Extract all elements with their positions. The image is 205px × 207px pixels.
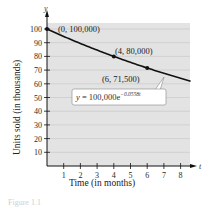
y-axis-letter: y — [43, 4, 48, 13]
y-tick-label: 50 — [34, 94, 42, 103]
y-tick-label: 100 — [30, 25, 42, 34]
y-tick-label: 30 — [34, 121, 42, 130]
x-tick-label: 7 — [162, 171, 166, 180]
figure-caption: Figure 1.1 — [8, 198, 41, 207]
x-axis-title: Time (in months) — [69, 178, 135, 189]
point-label-0: (0, 100,000) — [58, 24, 100, 34]
data-point — [45, 27, 49, 31]
x-axis-arrow-icon — [190, 164, 197, 168]
y-tick-label: 80 — [34, 52, 42, 61]
y-tick-label: 90 — [34, 39, 42, 48]
exponential-sales-chart: 102030405060708090100 12345678 y t (0, 1… — [0, 0, 205, 207]
y-tick-label: 20 — [34, 135, 42, 144]
y-axis-title: Units sold (in thousands) — [12, 60, 23, 155]
point-label-4: (4, 80,000) — [115, 46, 153, 56]
x-tick-label: 8 — [179, 171, 183, 180]
x-axis-letter: t — [199, 162, 202, 171]
y-tick-label: 40 — [34, 107, 42, 116]
point-label-6: (6, 71,500) — [102, 74, 140, 84]
y-tick-label: 60 — [34, 80, 42, 89]
data-point — [145, 66, 149, 70]
x-tick-label: 1 — [62, 171, 66, 180]
y-tick-label: 70 — [34, 66, 42, 75]
x-tick-label: 6 — [145, 171, 149, 180]
y-tick-label: 10 — [34, 148, 42, 157]
